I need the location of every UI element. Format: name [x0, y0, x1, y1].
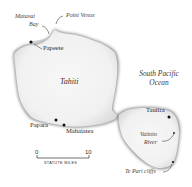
papara-label: Papara: [30, 122, 48, 129]
scale-start-label: 0: [35, 149, 38, 155]
papeete-marker: [29, 40, 32, 43]
vaitoto-river-mouth-marker: [173, 132, 175, 134]
vaitoto-river-label-line2: River: [144, 139, 157, 145]
matavai-bay-label-line1: Matavai: [15, 13, 35, 19]
vaitoto-river-label-line1: Vaitoto: [140, 131, 157, 137]
tautira-label: Tautira: [146, 107, 165, 114]
scale-end-label: 10: [85, 149, 92, 155]
ocean-label: South Pacific Ocean: [134, 70, 184, 87]
papeete-label: Papeete: [43, 45, 64, 52]
papara-marker: [55, 119, 58, 122]
scale-bar: [37, 155, 89, 158]
mahaiatea-label: Mahaiatea: [66, 128, 93, 135]
scale-unit-label: STATUTE MILES: [44, 162, 77, 166]
matavai-bay-leader: [42, 26, 49, 34]
tahiti-map: Matavai Bay Point Venus Papeete Tahiti S…: [0, 0, 192, 187]
ocean-label-line2: Ocean: [134, 79, 184, 86]
map-graphic: [0, 0, 192, 187]
ocean-label-line1: South Pacific: [134, 70, 184, 77]
point-venus-leader: [56, 16, 63, 24]
tahiti-label: Tahiti: [60, 78, 78, 86]
te-pari-cliffs-marker: [172, 161, 174, 163]
te-pari-cliffs-label: Te Pari cliffs: [125, 168, 156, 174]
tautira-marker: [168, 116, 171, 119]
point-venus-label: Point Venus: [66, 12, 95, 18]
matavai-bay-label-line2: Bay: [29, 21, 38, 27]
